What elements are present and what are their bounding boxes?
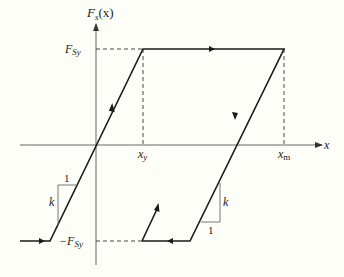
xm-label: xm <box>277 147 290 162</box>
arrow-right-icon <box>39 238 45 244</box>
fsy-label: FSy <box>64 42 81 57</box>
y-axis-label: Fs(x) <box>86 5 114 22</box>
hysteresis-diagram: Fs(x) x FSy −FSy xy xm k 1 k 1 <box>0 0 344 277</box>
slope-k-right: k <box>223 195 229 209</box>
xy-label: xy <box>137 147 147 162</box>
arrow-down-icon <box>232 112 238 120</box>
slope-triangle-right <box>201 183 220 222</box>
x-axis-label: x <box>323 138 330 152</box>
slope-1-left: 1 <box>64 172 70 184</box>
slope-k-left: k <box>49 195 55 209</box>
slope-1-right: 1 <box>208 224 214 236</box>
neg-fsy-label: −FSy <box>59 234 83 249</box>
arrow-right-icon <box>209 46 215 52</box>
arrow-up-icon <box>154 203 160 212</box>
arrow-left-icon <box>167 238 173 244</box>
